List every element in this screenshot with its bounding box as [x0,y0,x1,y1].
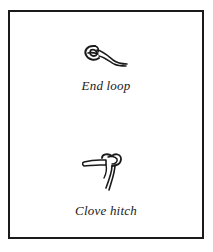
clove-hitch-knot-icon [82,152,126,192]
clove-hitch-label: Clove hitch [10,203,202,219]
end-loop-knot-icon [81,42,129,68]
end-loop-label: End loop [10,78,202,94]
knot-panel: End loop Clove hitch [8,10,204,239]
